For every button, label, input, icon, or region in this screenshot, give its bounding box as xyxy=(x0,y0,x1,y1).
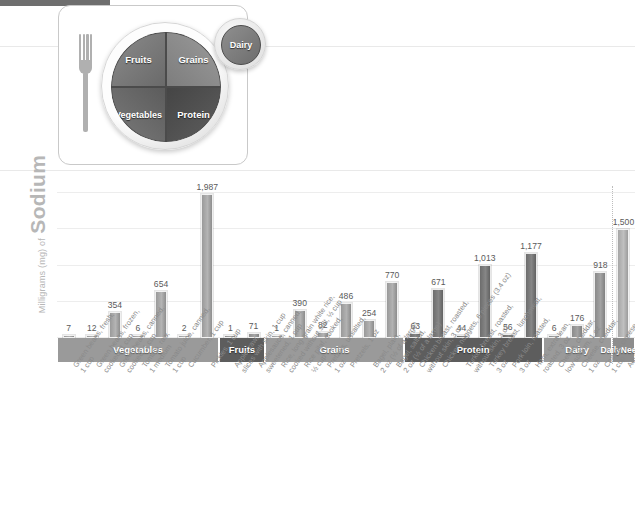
plate-segment-vegetables-label: Vegetables xyxy=(115,110,162,120)
gridline xyxy=(57,228,635,229)
gridline xyxy=(57,301,635,302)
dairy-cup-icon: Dairy xyxy=(214,18,266,70)
plate-segment-grains-label: Grains xyxy=(178,54,208,65)
bar-value-label: 390 xyxy=(284,298,316,308)
plate-segment-fruits: Fruits xyxy=(111,32,166,87)
y-axis-title-big: Sodium xyxy=(26,155,49,234)
bar-value-label: 1,987 xyxy=(191,182,223,192)
bar-value-label: 1,013 xyxy=(469,253,501,263)
x-axis-tick-labels: Green beans, fresh,1 cupGreen beans, fro… xyxy=(57,364,635,524)
plate-icon: Fruits Vegetables Grains Protein xyxy=(101,22,229,150)
plate-segment-grains: Grains xyxy=(166,32,221,87)
bar-value-label: 354 xyxy=(99,300,131,310)
bar-value-label: 654 xyxy=(145,279,177,289)
fork-icon xyxy=(79,34,92,132)
bar-value-label: 1,177 xyxy=(515,241,547,251)
myplate-card: Fruits Vegetables Grains Protein Dairy xyxy=(58,5,248,165)
background-hairline-bottom xyxy=(0,170,635,171)
y-axis-title-small: Milligrams (mg) of xyxy=(37,238,47,313)
bar-value-label: 770 xyxy=(376,270,408,280)
gridline xyxy=(57,265,635,266)
plate-segment-fruits-label: Fruits xyxy=(125,54,151,65)
dairy-label: Dairy xyxy=(230,40,253,50)
gridline xyxy=(57,192,635,193)
plate-segment-protein: Protein xyxy=(166,87,221,142)
plate-segment-protein-label: Protein xyxy=(177,109,210,120)
plate-segment-vegetables: Vegetables xyxy=(111,87,166,142)
y-axis-title: Milligrams (mg) of Sodium xyxy=(26,134,50,334)
bar-value-label: 671 xyxy=(422,277,454,287)
infographic-root: Fruits Vegetables Grains Protein Dairy M… xyxy=(0,0,635,525)
